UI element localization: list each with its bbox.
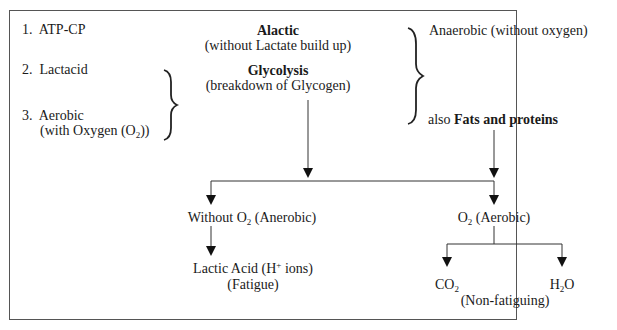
brace-right-icon (408, 28, 423, 124)
brace-left-icon (164, 70, 177, 140)
arrow-down-icon (206, 246, 216, 256)
arrow-down-icon (206, 195, 216, 205)
diagram-lines (0, 0, 617, 330)
arrow-down-icon (303, 168, 313, 178)
arrow-down-icon (489, 168, 499, 178)
arrow-down-icon (442, 257, 452, 267)
arrow-down-icon (489, 195, 499, 205)
arrow-down-icon (557, 257, 567, 267)
